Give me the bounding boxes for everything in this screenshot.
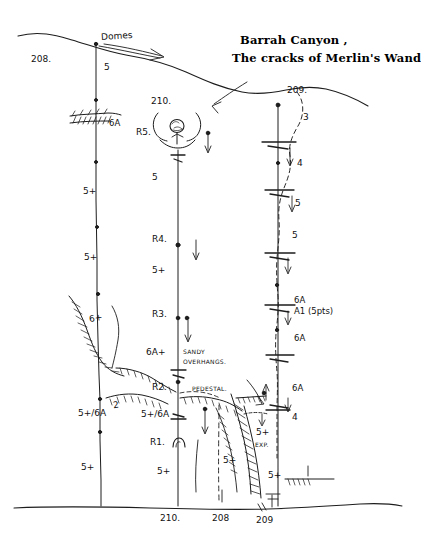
route-209-dashed	[276, 92, 303, 458]
grade-208-pitch5: 2	[112, 400, 119, 411]
grade-209-pitch4: 5	[292, 230, 298, 240]
protection-dot	[262, 391, 266, 395]
left-gully-line	[112, 306, 119, 368]
protection-dot	[276, 103, 280, 107]
grade-209-pitch9: 5+	[256, 427, 269, 437]
protection-dot	[98, 397, 101, 400]
grade-208-pitch6: 5+/6A	[78, 408, 106, 418]
grade-209-pitch8: 4	[292, 412, 298, 422]
bottom-right-ledge-hatching	[288, 479, 310, 485]
grade-208-pitch1: 5	[104, 62, 110, 72]
grade-209-pitch5: 6A	[294, 295, 305, 305]
annotation-aid-points: A1 (5pts)	[294, 306, 333, 316]
small-ledge-209	[236, 396, 266, 398]
grade-210-pitch4: 5+/6A	[141, 409, 169, 419]
grade-210-pitch2: 5+	[152, 265, 165, 275]
belay-label-r5: R5.	[136, 127, 151, 137]
grade-208-anchor-6a: 6A	[109, 118, 120, 128]
annotation-sandy-line2: OVERHANGS.	[183, 358, 226, 365]
domes-arrow	[99, 46, 160, 58]
protection-dot	[275, 328, 278, 331]
belay-label-r4: R4.	[152, 234, 167, 244]
grade-208-pitch3: 5+	[84, 252, 97, 262]
descent-arrow-head	[256, 396, 264, 405]
small-ledge-209-lower	[244, 413, 268, 415]
grade-209-pitch3: 5	[295, 198, 301, 208]
route-210-bottom-label: 210.	[160, 513, 180, 523]
grade-210-pitch1: 5	[152, 172, 158, 182]
pedestal-hatching	[184, 397, 236, 416]
grade-210-pitch5: 5+	[157, 466, 170, 476]
protection-dot	[96, 292, 99, 295]
annotation-pedestal: PEDESTAL.	[192, 385, 227, 392]
belay-label-r3: R3.	[152, 309, 167, 319]
route-210-top-label: 210.	[151, 96, 171, 106]
r1-arch-anchor	[173, 438, 185, 447]
page-title-line1: Barrah Canyon ,	[240, 33, 348, 47]
grade-208-pitch4: 6+	[88, 312, 103, 324]
protection-dot	[176, 380, 180, 384]
page-title-line2: The cracks of Merlin's Wand	[232, 51, 421, 65]
protection-dot	[176, 316, 180, 320]
route-209-bottom-label: 209	[256, 515, 273, 525]
grade-209-pitch1: 3	[303, 112, 309, 122]
annotation-sandy-line1: SANDY	[183, 348, 205, 355]
grade-208-pitch7: 5+	[81, 462, 94, 472]
route-209-top-label: 209.	[287, 85, 307, 95]
grade-lower-middle: 5+	[223, 455, 236, 465]
protection-dot	[176, 243, 180, 247]
lower-solid-line	[196, 440, 198, 492]
route-208-bottom-label: 208	[212, 513, 229, 523]
pointer-to-210-head	[212, 102, 221, 113]
r5-tree-anchor	[153, 113, 200, 148]
route-208-top-label: 208.	[31, 54, 51, 64]
protection-dot	[98, 430, 101, 433]
protection-dot	[95, 99, 98, 102]
left-buttress-edge	[69, 296, 124, 376]
grade-209-pitch6: 6A	[294, 333, 305, 343]
grade-209-pitch2: 4	[297, 158, 303, 168]
protection-dot	[275, 283, 278, 286]
protection-dot	[185, 316, 189, 320]
lower-right-secondary	[216, 408, 237, 492]
slab-band-upper	[116, 368, 176, 392]
grade-210-pitch3: 6A+	[146, 347, 165, 357]
ground-line	[14, 504, 402, 510]
grade-209-pitch10: 5+	[268, 470, 281, 480]
protection-dot	[94, 42, 97, 45]
belay-label-r1: R1.	[150, 437, 165, 447]
protection-dot	[276, 161, 279, 164]
annotation-exposed: EXP.	[255, 441, 269, 448]
protection-dot	[96, 226, 99, 229]
grade-209-pitch7: 6A	[292, 383, 303, 393]
protection-dot	[95, 161, 98, 164]
ground-tick-209	[258, 504, 262, 511]
belay-label-r2: R2.	[152, 382, 167, 392]
belay-bars-209	[262, 142, 296, 410]
grade-208-pitch2: 5+	[83, 186, 96, 196]
